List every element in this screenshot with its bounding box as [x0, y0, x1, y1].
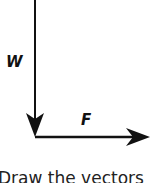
- instruction-caption: Draw the vectors: [0, 170, 144, 183]
- vector-f-arrow: [35, 128, 150, 146]
- vector-w-arrow: [26, 0, 44, 137]
- vector-diagram-canvas: [0, 0, 159, 183]
- vector-diagram: W F Draw the vectors: [0, 0, 159, 183]
- vector-w-label: W: [6, 55, 23, 70]
- vector-f-label: F: [81, 113, 91, 128]
